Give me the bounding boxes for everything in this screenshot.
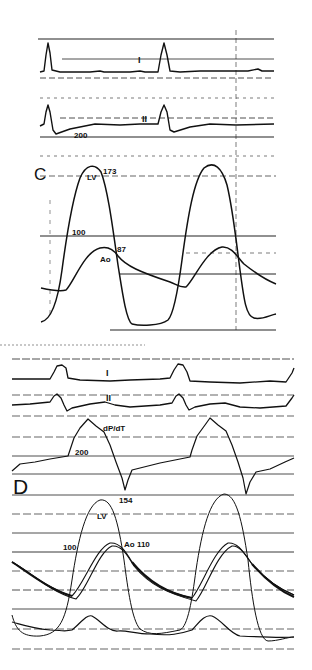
d-low-trace <box>12 616 294 638</box>
c-100-label: 100 <box>72 228 86 237</box>
d-lv-label: LV <box>97 512 107 521</box>
c-lead1-label: I <box>138 55 141 65</box>
d-scale-200: 200 <box>75 448 89 457</box>
d-100-label: 100 <box>63 543 77 552</box>
c-ecg-lead1-trace <box>40 43 274 72</box>
c-lv-label: LV <box>87 173 97 182</box>
c-ao-pressure-trace <box>41 247 276 291</box>
d-lv-peak-value: 154 <box>119 496 133 505</box>
d-dpdt-label: dP/dT <box>103 424 125 433</box>
panel-d-grid <box>12 359 294 649</box>
c-ao-label: Ao <box>100 255 111 264</box>
panel-label-d: D <box>13 475 28 498</box>
c-lead2-label: II <box>142 114 147 124</box>
c-lv-peak-value: 173 <box>103 167 117 176</box>
c-ecg-lead2-trace <box>40 105 274 134</box>
panel-label-c: C <box>34 165 46 184</box>
tracing-figure: C I II 200 LV 173 100 87 Ao D I II dP/dT… <box>0 0 312 670</box>
d-ao-label: Ao 110 <box>124 540 150 549</box>
d-lead2-label: II <box>106 393 111 403</box>
d-lead1-label: I <box>106 368 109 378</box>
c-ao-peak-value: 87 <box>117 245 126 254</box>
c-scale-200: 200 <box>74 131 88 140</box>
d-ecg-lead2-trace <box>12 394 294 411</box>
c-lv-pressure-trace <box>41 165 276 325</box>
d-lv-pressure-trace <box>12 494 294 641</box>
d-ecg-lead1-trace <box>12 364 294 383</box>
panel-c-grid <box>0 30 276 345</box>
